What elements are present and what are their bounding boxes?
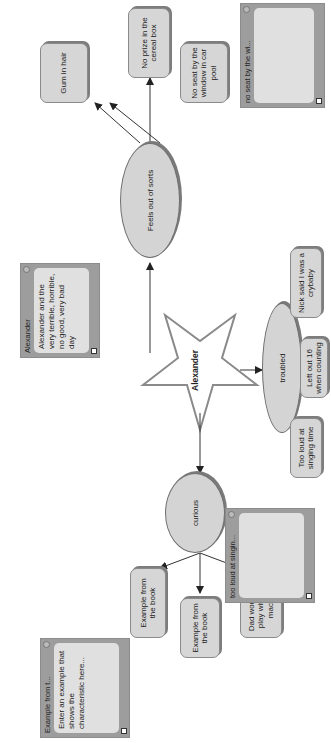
note-icon[interactable]: [121, 728, 127, 734]
branch-label: curious: [191, 500, 200, 526]
note-title: too loud at singin...: [228, 521, 237, 598]
resize-grip-icon[interactable]: [43, 641, 50, 648]
leaf-node[interactable]: Nick said I was a crybaby: [290, 248, 322, 318]
note-title: Example from t...: [43, 651, 52, 733]
leaf-node[interactable]: Example from the book: [180, 598, 220, 658]
center-node-label: Alexander: [190, 350, 200, 391]
branch-node-curious[interactable]: curious: [165, 473, 225, 553]
leaf-node[interactable]: Gum in hair: [40, 43, 88, 103]
leaf-node[interactable]: No seat by the window in car pool: [180, 43, 228, 103]
branch-label: Feels out of sorts: [146, 170, 155, 231]
note-body[interactable]: Alexander and the very terrible, horribl…: [34, 268, 89, 353]
branch-label: troubled: [278, 354, 287, 383]
leaf-node[interactable]: Too loud at singing time: [290, 418, 322, 478]
resize-grip-icon[interactable]: [243, 6, 250, 13]
leaf-node[interactable]: Left out 16 when counting: [300, 338, 328, 398]
note-body[interactable]: Enter an example that shows the characte…: [54, 643, 119, 733]
note-too-loud[interactable]: too loud at singin...: [225, 508, 315, 603]
note-body[interactable]: [254, 8, 314, 103]
note-icon[interactable]: [306, 593, 312, 599]
concept-map: Alexander Feels out of sorts Gum in hair…: [0, 0, 331, 743]
branch-node-feels-out-of-sorts[interactable]: Feels out of sorts: [120, 143, 180, 258]
note-body[interactable]: [239, 513, 304, 598]
branch-node-troubled[interactable]: troubled: [262, 303, 302, 433]
leaf-node[interactable]: Example from the book: [130, 568, 166, 638]
resize-grip-icon[interactable]: [23, 266, 30, 273]
star-shape[interactable]: [143, 315, 257, 430]
note-no-seat[interactable]: no seat by the wi...: [240, 3, 325, 108]
note-title: Alexander: [23, 276, 32, 353]
resize-grip-icon[interactable]: [228, 511, 235, 518]
note-icon[interactable]: [316, 98, 322, 104]
note-alexander[interactable]: Alexander Alexander and the very terribl…: [20, 263, 100, 358]
note-title: no seat by the wi...: [243, 16, 252, 103]
note-example[interactable]: Example from t... Enter an example that …: [40, 638, 130, 738]
leaf-node[interactable]: No prize in the cereal box: [128, 8, 170, 78]
note-icon[interactable]: [91, 348, 97, 354]
